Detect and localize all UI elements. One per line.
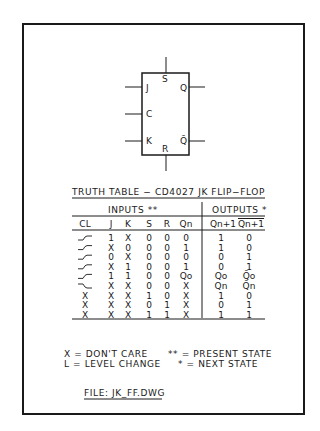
inputs-group-label: INPUTS ** <box>108 205 158 215</box>
cell-qn: 0 <box>175 233 197 243</box>
cell-qn1: 1 <box>210 310 232 320</box>
column-header-2: K <box>117 219 139 229</box>
cell-qn: X <box>175 310 197 320</box>
file-name: FILE: JK_FF.DWG <box>84 388 165 398</box>
cell-qn1bar: Q̄o <box>238 271 260 281</box>
cell-qn1bar: 0 <box>238 291 260 301</box>
table-title: TRUTH TABLE − CD4027 JK FLIP−FLOP <box>72 187 265 197</box>
cell-k: X <box>117 291 139 301</box>
legend-level-change: L = LEVEL CHANGE <box>64 359 161 369</box>
cell-qn: 0 <box>175 252 197 262</box>
rising-edge-icon <box>78 255 92 259</box>
cell-k: X <box>117 300 139 310</box>
pin-label-r: R <box>162 144 168 154</box>
legend-present-state: ** = PRESENT STATE <box>168 349 272 359</box>
pin-label-c: C <box>146 109 152 119</box>
cell-qn1bar: 1 <box>238 310 260 320</box>
cell-qn1: Qo <box>210 271 232 281</box>
cell-qn1bar: Q̄n <box>238 281 260 291</box>
cell-qn1: 0 <box>210 262 232 272</box>
pin-label-qbar: Q̄ <box>180 136 187 146</box>
cell-qn: 1 <box>175 243 197 253</box>
rising-edge-icon <box>78 236 92 240</box>
cell-qn1: 1 <box>210 243 232 253</box>
rising-edge-icon <box>78 246 92 250</box>
cell-qn: X <box>175 300 197 310</box>
cell-qn1: 0 <box>210 252 232 262</box>
column-header-5: Qn <box>175 219 197 229</box>
legend-dont-care: X = DON'T CARE <box>64 349 148 359</box>
cell-qn: X <box>175 291 197 301</box>
column-header-7: Qn+1 <box>238 219 260 229</box>
cell-qn1bar: 0 <box>238 243 260 253</box>
cell-k: X <box>117 252 139 262</box>
cell-cl: X <box>74 291 96 301</box>
cell-qn1: Qn <box>210 281 232 291</box>
cell-k: X <box>117 310 139 320</box>
cell-qn1: 1 <box>210 291 232 301</box>
cell-k: X <box>117 233 139 243</box>
pin-label-k: K <box>146 136 152 146</box>
cell-cl: X <box>74 310 96 320</box>
legend-next-state: * = NEXT STATE <box>178 359 258 369</box>
cell-k: 1 <box>117 271 139 281</box>
cell-k: 0 <box>117 243 139 253</box>
cell-qn1bar: 1 <box>238 300 260 310</box>
cell-qn1bar: 1 <box>238 252 260 262</box>
cell-qn: X <box>175 281 197 291</box>
cell-k: 1 <box>117 262 139 272</box>
cell-cl: X <box>74 300 96 310</box>
cell-qn: 1 <box>175 262 197 272</box>
cell-k: X <box>117 281 139 291</box>
outputs-group-label: OUTPUTS * <box>212 205 267 215</box>
cell-qn1bar: 0 <box>238 233 260 243</box>
pin-label-s: S <box>162 74 168 84</box>
column-header-0: CL <box>74 219 96 229</box>
falling-edge-icon <box>78 284 92 288</box>
pin-label-q: Q <box>180 83 187 93</box>
column-header-6: Qn+1 <box>210 219 232 229</box>
cell-qn1: 0 <box>210 300 232 310</box>
rising-edge-icon <box>78 265 92 269</box>
pin-label-j: J <box>146 83 149 93</box>
rising-edge-icon <box>78 274 92 278</box>
cell-qn1: 1 <box>210 233 232 243</box>
cell-qn: Qo <box>175 271 197 281</box>
